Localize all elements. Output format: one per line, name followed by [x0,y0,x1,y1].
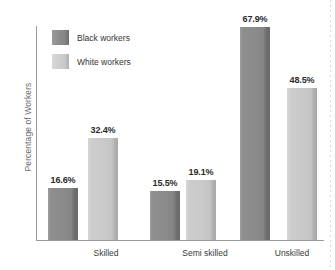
plot-area: 16.6% 32.4% 15.5% 19.1% 67.9% 48.5% [0,0,335,270]
bar-value-label-white-workers-unskilled: 48.5% [272,75,332,85]
bar-white-workers-skilled [88,138,118,240]
bar-value-label-black-workers-unskilled: 67.9% [225,14,285,24]
bar-fill [186,180,216,240]
bar-value-label-black-workers-skilled: 16.6% [33,175,93,185]
x-axis-label-semi-skilled: Semi skilled [155,248,255,258]
x-axis-label-skilled: Skilled [56,248,156,258]
bar-black-workers-unskilled [240,27,270,240]
bar-fill [150,191,180,240]
x-axis-label-unskilled: Unskilled [242,248,335,258]
page-edge-rule [330,0,331,270]
bar-value-label-white-workers-semi-skilled: 19.1% [171,167,231,177]
bar-black-workers-semi-skilled [150,191,180,240]
bar-fill [88,138,118,240]
bar-fill [287,88,317,240]
bar-fill [48,188,78,240]
bar-value-label-white-workers-skilled: 32.4% [73,125,133,135]
bar-fill [240,27,270,240]
bar-black-workers-skilled [48,188,78,240]
bar-white-workers-semi-skilled [186,180,216,240]
bar-chart: Percentage of Workers Black workers Whit… [0,0,335,270]
bar-white-workers-unskilled [287,88,317,240]
